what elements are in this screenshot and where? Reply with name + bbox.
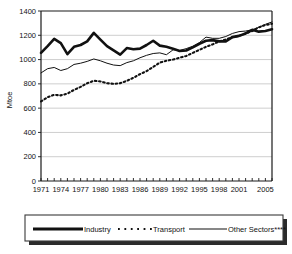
chart-figure: Mtoe 0200400600800100012001400 197119741… [0,0,292,254]
y-tick-label: 1200 [19,31,36,40]
chart-legend: Industry Transport Other Sectors**** [25,215,287,245]
y-tick-label: 600 [23,104,36,113]
x-tick-label: 1971 [33,185,50,194]
legend-label-other-sectors: Other Sectors**** [228,225,286,234]
x-tick-label: 2001 [231,185,248,194]
y-tick-label: 1400 [19,7,36,16]
y-tick-label: 1000 [19,55,36,64]
legend-label-transport: Transport [153,225,186,234]
x-tick-label: 1977 [72,185,89,194]
x-tick-label: 2005 [257,185,274,194]
y-tick-label: 200 [23,152,36,161]
line-chart: Mtoe 0200400600800100012001400 197119741… [0,0,292,254]
y-axis-tick-labels: 0200400600800100012001400 [19,7,41,186]
data-series-group [41,22,272,102]
x-tick-label: 1989 [151,185,168,194]
x-tick-label: 1980 [92,185,109,194]
y-tick-label: 400 [23,128,36,137]
legend-label-industry: Industry [84,225,111,234]
x-tick-label: 1998 [211,185,228,194]
x-axis-tick-labels: 1971197419771980198319861989199219951998… [33,185,274,194]
x-tick-label: 1974 [52,185,69,194]
y-axis-label-text: Mtoe [5,92,14,109]
x-tick-label: 1986 [132,185,149,194]
x-tick-label: 1992 [171,185,188,194]
y-tick-label: 800 [23,79,36,88]
x-tick-label: 1995 [191,185,208,194]
y-axis-label: Mtoe [5,92,14,109]
x-tick-label: 1983 [112,185,129,194]
series-line-industry [41,29,272,55]
